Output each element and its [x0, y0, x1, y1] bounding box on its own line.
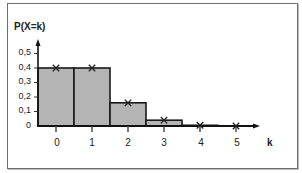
x-tick-label: 3 — [157, 137, 171, 148]
x-tick-label: 2 — [121, 137, 135, 148]
y-tick-label: 0,1 — [11, 105, 31, 115]
x-tick-label: 5 — [230, 137, 244, 148]
histogram-bar — [38, 68, 74, 126]
x-axis-label: k — [267, 137, 273, 148]
histogram-bar — [110, 103, 146, 126]
y-tick-label: 0,3 — [11, 76, 31, 86]
y-tick-label: 0,2 — [11, 91, 31, 101]
x-axis-arrow-icon — [253, 124, 260, 129]
y-tick-label: 0,4 — [11, 62, 31, 72]
y-axis-label: P(X=k) — [14, 21, 45, 32]
x-tick-label: 4 — [194, 137, 208, 148]
x-tick-label: 1 — [85, 137, 99, 148]
y-tick-label: 0,5 — [11, 47, 31, 57]
y-axis-arrow-icon — [36, 39, 41, 46]
histogram-bar — [74, 68, 110, 126]
y-tick-label: 0 — [11, 120, 31, 130]
x-tick-label: 0 — [50, 137, 64, 148]
